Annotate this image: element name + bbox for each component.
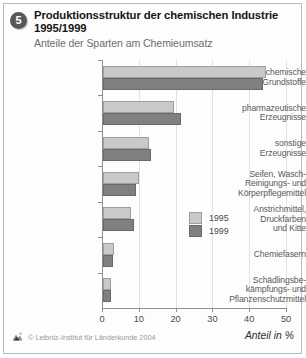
bar-1999 [103, 149, 151, 161]
y-tick [98, 60, 102, 61]
bar-1995 [103, 172, 139, 184]
bar-1999 [103, 184, 136, 196]
category-label-line: Chemiefasern [210, 250, 306, 260]
x-tick-label: 20 [170, 314, 180, 324]
category-label-line: Erzeugnisse [210, 149, 306, 159]
y-tick [98, 166, 102, 167]
bar-1999 [103, 219, 134, 231]
bar-1999 [103, 290, 111, 302]
x-tick [176, 308, 177, 312]
chart-subtitle: Anteile der Sparten am Chemieumsatz [34, 37, 296, 49]
x-tick [286, 308, 287, 312]
legend-item: 1999 [189, 224, 229, 237]
y-tick [98, 95, 102, 96]
chart-page: 5 Produktionsstruktur der chemischen Ind… [0, 0, 306, 358]
category-label-line: Körperpflegemittel [210, 189, 306, 199]
chart-title: Produktionsstruktur der chemischen Indus… [34, 9, 296, 35]
y-tick [98, 273, 102, 274]
bar-1995 [103, 137, 149, 149]
x-axis [102, 308, 287, 309]
bar-1995 [103, 101, 174, 113]
legend: 1995 1999 [189, 211, 229, 237]
institute-logo-icon [11, 331, 24, 344]
x-axis-title: Anteil in % [245, 330, 294, 341]
category-label-line: Pflanzenschutzmittel [210, 295, 306, 305]
legend-swatch-1995 [189, 212, 202, 224]
x-tick [212, 308, 213, 312]
legend-item: 1995 [189, 211, 229, 224]
x-tick [139, 308, 140, 312]
bar-1995 [103, 278, 111, 290]
copyright-credit: © Leibniz-Institut für Länderkunde 2004 [28, 333, 156, 342]
x-tick-label: 40 [244, 314, 254, 324]
y-tick [98, 202, 102, 203]
gridline [139, 60, 140, 308]
x-tick-label: 30 [207, 314, 217, 324]
category-label: Schädlingsbe-kämpfungs- undPflanzenschut… [210, 276, 306, 305]
category-label: sonstigeErzeugnisse [210, 139, 306, 158]
y-tick [98, 131, 102, 132]
legend-swatch-1999 [189, 225, 202, 237]
y-tick [98, 237, 102, 238]
category-label: Chemiefasern [210, 250, 306, 260]
legend-label-1995: 1995 [209, 213, 229, 223]
bar-1999 [103, 255, 113, 267]
x-tick-label: 50 [281, 314, 291, 324]
category-label: pharmazeutischeErzeugnisse [210, 104, 306, 123]
category-label-line: Erzeugnisse [210, 113, 306, 123]
category-label-line: Grundstoffe [210, 78, 306, 88]
category-label: chemischeGrundstoffe [210, 68, 306, 87]
gridline [176, 60, 177, 308]
x-tick-label: 10 [134, 314, 144, 324]
x-tick-label: 0 [99, 314, 104, 324]
bar-1995 [103, 207, 131, 219]
category-label: Seifen, Wasch-Reinigungs- undKörperpfleg… [210, 170, 306, 199]
legend-label-1999: 1999 [209, 226, 229, 236]
x-tick [102, 308, 103, 312]
bar-1995 [103, 243, 114, 255]
bar-1999 [103, 113, 181, 125]
x-tick [249, 308, 250, 312]
figure-number-badge: 5 [10, 12, 27, 29]
